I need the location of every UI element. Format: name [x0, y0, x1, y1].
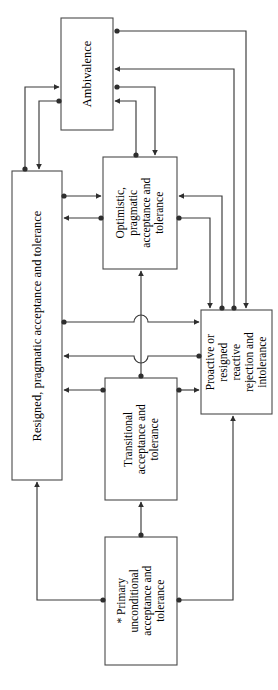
- node-box-ambivalence: [61, 18, 113, 130]
- edge-ambivalence-to-resigned: [39, 101, 59, 169]
- edge-dot: [100, 387, 105, 392]
- edge-dot: [114, 84, 119, 89]
- edge-primary-to-proactive: [179, 416, 233, 600]
- edge-dot: [196, 353, 201, 358]
- edge-dot: [114, 28, 119, 33]
- edge-dot: [56, 98, 61, 103]
- edge-resigned-to-proactive: [64, 315, 199, 322]
- edge-dot: [176, 215, 181, 220]
- edge-dot: [176, 387, 181, 392]
- edge-proactive-to-resigned: [64, 356, 199, 363]
- node-box-proactive: [201, 310, 272, 414]
- edge-dot: [231, 305, 236, 310]
- edge-dot: [61, 193, 66, 198]
- diagram-svg: [0, 0, 278, 690]
- edge-dot: [219, 305, 224, 310]
- node-box-primary: [105, 537, 177, 665]
- edge-primary-to-resigned: [37, 482, 103, 600]
- node-box-transitional: [105, 378, 177, 500]
- edge-dot: [176, 597, 181, 602]
- edge-dot: [100, 597, 105, 602]
- edge-dot: [138, 373, 143, 378]
- edge-dot: [98, 215, 103, 220]
- edge-proactive-to-optimistic: [179, 196, 222, 308]
- node-box-optimistic: [103, 157, 177, 269]
- edge-dot: [22, 166, 27, 171]
- node-box-resigned: [12, 171, 62, 480]
- edge-optimistic-to-proactive: [179, 218, 210, 308]
- edge-dot: [138, 532, 143, 537]
- edge-resigned-to-ambivalence: [25, 87, 59, 169]
- edge-dot: [133, 152, 138, 157]
- diagram-canvas: Ambivalence Resigned, pragmatic acceptan…: [0, 0, 278, 690]
- edge-ambivalence-to-optimistic: [115, 101, 136, 155]
- edge-dot: [61, 319, 66, 324]
